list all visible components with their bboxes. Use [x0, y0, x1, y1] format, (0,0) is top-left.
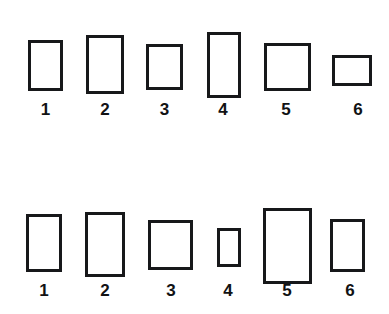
- rectangle-label-bottom-4: 4: [209, 281, 247, 301]
- rectangle-label-bottom-1: 1: [26, 281, 62, 301]
- rectangle-bottom-2[interactable]: [85, 212, 125, 277]
- rectangle-outline: [85, 212, 125, 277]
- rectangle-label-bottom-3: 3: [151, 281, 191, 301]
- rectangle-outline: [148, 220, 193, 270]
- rectangles-figure: 123456123456: [0, 0, 389, 314]
- rectangle-bottom-6[interactable]: [330, 219, 365, 272]
- rectangle-outline: [217, 228, 241, 267]
- rectangle-outline: [26, 214, 62, 272]
- rectangle-bottom-1[interactable]: [26, 214, 62, 272]
- rectangle-bottom-3[interactable]: [148, 220, 193, 270]
- rectangle-label-bottom-5: 5: [267, 281, 307, 301]
- rectangle-outline: [263, 208, 312, 284]
- rectangle-bottom-5[interactable]: [263, 208, 312, 284]
- rectangle-bottom-4[interactable]: [217, 228, 241, 267]
- rectangle-label-bottom-2: 2: [85, 281, 125, 301]
- rectangle-label-bottom-6: 6: [331, 281, 369, 301]
- rectangle-outline: [330, 219, 365, 272]
- bottom-row: 123456: [0, 0, 389, 314]
